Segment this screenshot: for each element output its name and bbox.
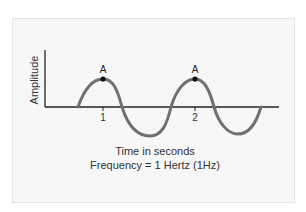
x-tick-label-1: 1	[100, 112, 106, 123]
sine-wave-diagram	[0, 0, 306, 212]
peak-dot-1	[100, 76, 105, 81]
peak-dot-2	[192, 76, 197, 81]
x-axis-caption: Time in seconds	[115, 145, 195, 157]
peak-label-1: A	[100, 64, 107, 75]
y-axis-label: Amplitude	[28, 56, 40, 105]
x-tick-label-2: 2	[192, 112, 198, 123]
frequency-caption: Frequency = 1 Hertz (1Hz)	[90, 159, 220, 171]
peak-label-2: A	[192, 64, 199, 75]
